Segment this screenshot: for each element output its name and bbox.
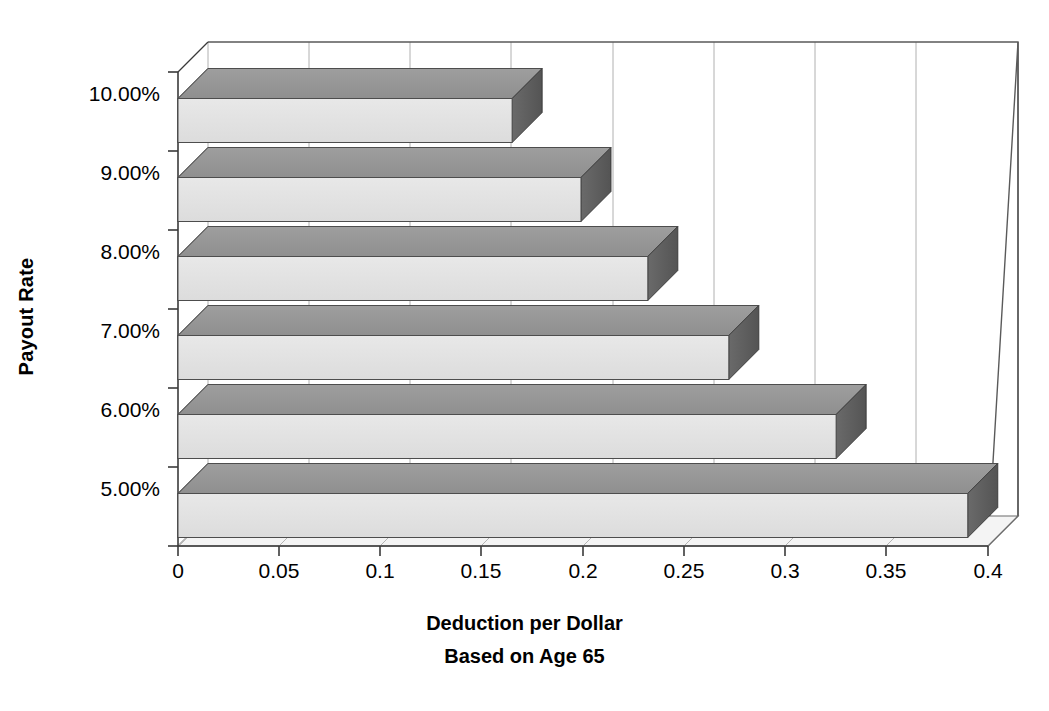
bar-5p00% xyxy=(178,464,998,538)
y-axis-ticks xyxy=(168,72,178,546)
bar-front-face xyxy=(178,178,581,222)
bar-7p00% xyxy=(178,306,759,380)
y-tick-label-6: 6.00% xyxy=(20,399,160,420)
x-tick-label-0p25: 0.25 xyxy=(639,560,729,581)
x-tick-label-0p4: 0.4 xyxy=(943,560,1033,581)
x-tick-label-0p2: 0.2 xyxy=(538,560,628,581)
bar-10p00% xyxy=(178,69,542,143)
x-tick-label-0p15: 0.15 xyxy=(436,560,526,581)
bar-top-face xyxy=(178,69,542,99)
bar-8p00% xyxy=(178,227,678,301)
bar-front-face xyxy=(178,494,968,538)
bar-top-face xyxy=(178,148,611,178)
chart-plot-area xyxy=(0,0,1049,711)
y-tick-label-10: 10.00% xyxy=(20,83,160,104)
x-tick-label-0p35: 0.35 xyxy=(841,560,931,581)
bar-front-face xyxy=(178,99,512,143)
bar-top-face xyxy=(178,227,678,257)
y-tick-label-8: 8.00% xyxy=(20,241,160,262)
y-tick-label-9: 9.00% xyxy=(20,162,160,183)
y-tick-label-7: 7.00% xyxy=(20,320,160,341)
bar-top-face xyxy=(178,385,866,415)
bar-top-face xyxy=(178,464,998,494)
bar-6p00% xyxy=(178,385,866,459)
x-tick-label-0p05: 0.05 xyxy=(234,560,324,581)
x-tick-label-0p1: 0.1 xyxy=(335,560,425,581)
x-axis-ticks xyxy=(178,546,988,556)
x-tick-label-0: 0 xyxy=(133,560,223,581)
x-tick-label-0p3: 0.3 xyxy=(740,560,830,581)
y-axis-title: Payout Rate xyxy=(15,237,38,397)
bar-chart: 10.00% 9.00% 8.00% 7.00% 6.00% 5.00% 0 0… xyxy=(0,0,1049,711)
bar-top-face xyxy=(178,306,759,336)
bar-front-face xyxy=(178,415,836,459)
y-tick-label-5: 5.00% xyxy=(20,478,160,499)
bar-front-face xyxy=(178,257,648,301)
x-axis-title-line2: Based on Age 65 xyxy=(0,645,1049,668)
bar-9p00% xyxy=(178,148,611,222)
bar-front-face xyxy=(178,336,729,380)
x-axis-title-line1: Deduction per Dollar xyxy=(0,612,1049,635)
